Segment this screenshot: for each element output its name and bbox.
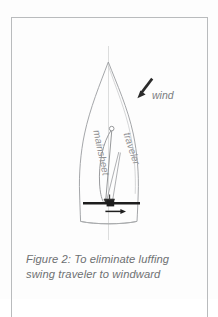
label-wind: wind: [152, 89, 174, 101]
wind-arrow-head: [137, 91, 145, 99]
traveler-car: [107, 200, 115, 206]
figure-caption: Figure 2: To eliminate luffing swing tra…: [26, 252, 198, 281]
mast: [109, 126, 114, 131]
wind-arrow-shaft: [141, 79, 152, 94]
traveler-direction-arrow-head: [120, 209, 126, 214]
